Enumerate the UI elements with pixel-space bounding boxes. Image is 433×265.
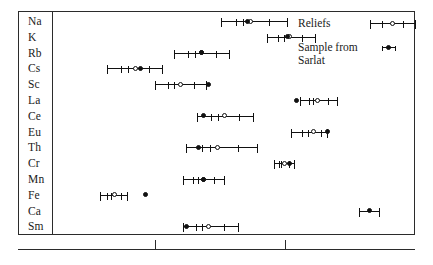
- legend-label: Reliefs: [298, 17, 331, 30]
- reliefs-marker: [215, 145, 220, 150]
- row-label-cs: Cs: [28, 60, 41, 76]
- error-bar-tick: [236, 19, 237, 26]
- error-bar-tick: [198, 177, 199, 184]
- error-bar-cap: [155, 81, 156, 90]
- data-rows: NaKRbCsScLaCeEuThCrMnFeCaSm: [0, 0, 433, 265]
- sarlat-marker: [206, 82, 211, 87]
- sarlat-marker: [325, 129, 330, 134]
- chart-row: Sm: [0, 218, 433, 234]
- figure-container: NaKRbCsScLaCeEuThCrMnFeCaSm ReliefsSampl…: [0, 0, 433, 265]
- error-bar-cap: [291, 129, 292, 138]
- error-bar-tick: [202, 224, 203, 231]
- row-label-cr: Cr: [28, 155, 40, 171]
- error-bar-tick: [328, 98, 329, 105]
- row-label-fe: Fe: [28, 187, 40, 203]
- row-label-rb: Rb: [28, 45, 42, 61]
- error-bar-tick: [278, 35, 279, 42]
- chart-row: Ca: [0, 203, 433, 219]
- row-label-la: La: [28, 92, 41, 108]
- sarlat-marker: [367, 208, 372, 213]
- error-bar: [221, 21, 288, 22]
- legend-label: Sample from Sarlat: [298, 41, 358, 67]
- reliefs-marker: [282, 161, 287, 166]
- sarlat-marker: [196, 145, 201, 150]
- error-bar-cap: [395, 46, 396, 51]
- error-bar-tick: [214, 177, 215, 184]
- error-bar-tick: [194, 82, 195, 89]
- reliefs-marker: [133, 66, 138, 71]
- row-label-eu: Eu: [28, 124, 41, 140]
- error-bar-cap: [229, 50, 230, 59]
- row-label-k: K: [28, 29, 37, 45]
- error-bar-cap: [174, 50, 175, 59]
- row-label-th: Th: [28, 139, 41, 155]
- row-label-ce: Ce: [28, 108, 41, 124]
- error-bar-tick: [308, 130, 309, 137]
- error-bar-tick: [239, 114, 240, 121]
- error-bar-tick: [168, 82, 169, 89]
- chart-row: Fe: [0, 187, 433, 203]
- reliefs-marker: [390, 21, 395, 26]
- axis-tick: [155, 240, 156, 249]
- chart-row: La: [0, 92, 433, 108]
- error-bar-tick: [269, 19, 270, 26]
- error-bar-cap: [197, 113, 198, 122]
- error-bar-cap: [183, 176, 184, 185]
- error-bar-cap: [100, 192, 101, 201]
- chart-row: Th: [0, 139, 433, 155]
- reliefs-marker: [311, 129, 316, 134]
- chart-row: Na: [0, 13, 433, 29]
- error-bar-cap: [127, 192, 128, 201]
- axis-tick: [285, 240, 286, 249]
- error-bar-tick: [195, 51, 196, 58]
- sarlat-marker: [199, 50, 204, 55]
- error-bar-cap: [162, 65, 163, 74]
- error-bar-tick: [210, 145, 211, 152]
- row-label-mn: Mn: [28, 171, 44, 187]
- row-label-sm: Sm: [28, 218, 44, 234]
- error-bar-cap: [359, 208, 360, 217]
- error-bar-tick: [403, 21, 404, 28]
- error-bar-tick: [313, 98, 314, 105]
- error-bar-tick: [128, 66, 129, 73]
- error-bar-tick: [149, 66, 150, 73]
- error-bar-cap: [253, 113, 254, 122]
- chart-row: K: [0, 29, 433, 45]
- chart-row: Sc: [0, 76, 433, 92]
- error-bar-tick: [211, 114, 212, 121]
- row-label-ca: Ca: [28, 203, 41, 219]
- sarlat-marker: [138, 66, 143, 71]
- chart-row: Cr: [0, 155, 433, 171]
- error-bar-cap: [186, 144, 187, 153]
- sarlat-marker: [245, 19, 250, 24]
- error-bar-tick: [309, 98, 310, 105]
- reliefs-marker: [222, 113, 227, 118]
- sarlat-marker: [287, 161, 292, 166]
- chart-row: Ce: [0, 108, 433, 124]
- error-bar-tick: [202, 145, 203, 152]
- error-bar-cap: [224, 176, 225, 185]
- error-bar-tick: [121, 193, 122, 200]
- chart-row: Mn: [0, 171, 433, 187]
- error-bar-cap: [370, 20, 371, 29]
- error-bar-tick: [107, 193, 108, 200]
- sarlat-marker: [201, 113, 206, 118]
- reliefs-marker: [206, 224, 211, 229]
- chart-row: Cs: [0, 60, 433, 76]
- error-bar: [291, 132, 328, 133]
- error-bar-tick: [238, 145, 239, 152]
- error-bar-cap: [267, 34, 268, 43]
- sarlat-marker: [201, 177, 206, 182]
- chart-row: Rb: [0, 45, 433, 61]
- error-bar-tick: [321, 130, 322, 137]
- legend-marker-sample: [370, 16, 420, 30]
- error-bar-cap: [257, 144, 258, 153]
- error-bar-cap: [337, 97, 338, 106]
- error-bar-tick: [193, 177, 194, 184]
- error-bar-cap: [107, 65, 108, 74]
- error-bar-cap: [294, 160, 295, 169]
- chart-row: Eu: [0, 124, 433, 140]
- legend-marker-sample: [370, 40, 420, 54]
- error-bar-cap: [287, 18, 288, 27]
- reliefs-marker: [112, 192, 117, 197]
